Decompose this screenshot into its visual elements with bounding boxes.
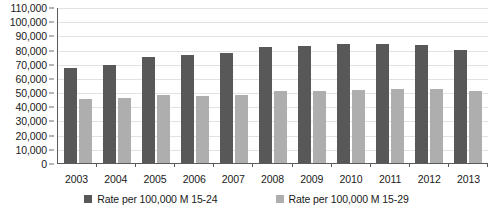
legend-swatch-icon-series-2: [276, 195, 284, 203]
bar-group: [332, 8, 371, 163]
x-axis-tick-label: 2012: [410, 172, 449, 188]
bar-series-2[interactable]: [196, 96, 209, 163]
bar-series-1[interactable]: [181, 55, 194, 163]
y-axis-tick-mark: [49, 93, 54, 94]
y-axis-tick-mark: [49, 64, 54, 65]
legend-label-series-1: Rate per 100,000 M 15-24: [97, 194, 217, 205]
y-axis-tick-label: 10,000: [15, 145, 47, 156]
bar-series-1[interactable]: [142, 57, 155, 163]
y-axis-tick-mark: [49, 164, 54, 165]
bar-series-2[interactable]: [391, 89, 404, 163]
bar-series-1[interactable]: [454, 50, 467, 163]
bar-series-2[interactable]: [430, 89, 443, 163]
bar-group: [175, 8, 214, 163]
y-axis-tick-mark: [49, 78, 54, 79]
bar-series-1[interactable]: [259, 47, 272, 163]
bar-series-1[interactable]: [298, 46, 311, 163]
x-axis-tick-label: 2005: [135, 172, 174, 188]
bar-series-2[interactable]: [352, 90, 365, 163]
y-axis-tick-mark: [49, 8, 54, 9]
bar-series-1[interactable]: [64, 68, 77, 163]
y-axis-tick-mark: [49, 50, 54, 51]
bar-group: [58, 8, 97, 163]
legend-label-series-2: Rate per 100,000 M 15-29: [289, 194, 409, 205]
bar-group: [253, 8, 292, 163]
legend-swatch-icon-series-1: [84, 195, 92, 203]
x-axis: 2003200420052006200720082009201020112012…: [57, 172, 488, 188]
bar-series-1[interactable]: [376, 44, 389, 163]
x-axis-tick-label: 2008: [253, 172, 292, 188]
y-axis-tick-mark: [49, 135, 54, 136]
y-axis-tick-mark: [49, 149, 54, 150]
bar-series-1[interactable]: [415, 45, 428, 163]
bar-series-2[interactable]: [157, 95, 170, 163]
x-axis-tick-label: 2013: [449, 172, 488, 188]
bar-group: [136, 8, 175, 163]
y-axis-tick-mark: [49, 121, 54, 122]
bar-group: [97, 8, 136, 163]
y-axis-tick-label: 50,000: [15, 88, 47, 99]
bar-group: [410, 8, 449, 163]
bar-series-2[interactable]: [118, 98, 131, 163]
legend-item-series-2[interactable]: Rate per 100,000 M 15-29: [276, 194, 409, 205]
y-axis-tick-label: 30,000: [15, 116, 47, 127]
y-axis-tick-label: 0: [41, 159, 47, 170]
plot-wrapper: 110,000100,00090,00080,00070,00060,00050…: [0, 0, 493, 172]
y-axis-tick-mark: [49, 36, 54, 37]
bar-group: [214, 8, 253, 163]
bar-series-1[interactable]: [337, 44, 350, 163]
y-axis-tick-label: 80,000: [15, 45, 47, 56]
bar-series-1[interactable]: [220, 53, 233, 163]
bars-layer: [58, 8, 488, 163]
bar-series-2[interactable]: [469, 91, 482, 163]
x-axis-tick-label: 2010: [331, 172, 370, 188]
legend: Rate per 100,000 M 15-24 Rate per 100,00…: [0, 190, 493, 208]
x-axis-tick-label: 2003: [57, 172, 96, 188]
y-axis-tick-mark: [49, 107, 54, 108]
bar-series-1[interactable]: [103, 65, 116, 163]
y-axis-tick-label: 90,000: [15, 31, 47, 42]
bar-series-2[interactable]: [235, 95, 248, 163]
bar-series-2[interactable]: [274, 91, 287, 163]
bar-group: [449, 8, 488, 163]
y-axis-tick-label: 110,000: [11, 3, 47, 14]
y-axis-tick-label: 100,000: [10, 17, 47, 28]
y-axis-tick-label: 20,000: [15, 130, 47, 141]
plot-area: [57, 8, 488, 164]
x-axis-tick-label: 2007: [214, 172, 253, 188]
x-axis-tick-label: 2004: [96, 172, 135, 188]
y-axis-tick-mark: [49, 22, 54, 23]
bar-series-2[interactable]: [79, 99, 92, 163]
y-axis: 110,000100,00090,00080,00070,00060,00050…: [0, 8, 55, 164]
x-axis-tick-label: 2006: [175, 172, 214, 188]
bar-chart: 110,000100,00090,00080,00070,00060,00050…: [0, 0, 493, 213]
x-axis-tick-label: 2011: [371, 172, 410, 188]
bar-series-2[interactable]: [313, 91, 326, 163]
y-axis-tick-label: 40,000: [15, 102, 47, 113]
legend-item-series-1[interactable]: Rate per 100,000 M 15-24: [84, 194, 217, 205]
x-axis-tick-label: 2009: [292, 172, 331, 188]
y-axis-tick-label: 70,000: [15, 59, 47, 70]
bar-group: [293, 8, 332, 163]
bar-group: [371, 8, 410, 163]
y-axis-tick-label: 60,000: [15, 74, 47, 85]
